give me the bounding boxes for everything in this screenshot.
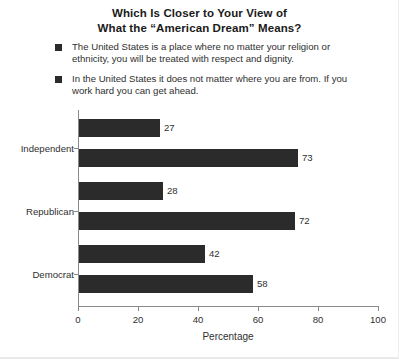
y-tick-label-democrat: Democrat [32,269,74,280]
y-tick-label-republican: Republican [26,206,74,217]
x-axis-title: Percentage [78,331,378,342]
x-tick-mark-60 [258,306,259,311]
x-tick-mark-40 [198,306,199,311]
y-tick-label-independent: Independent [21,143,74,154]
x-tick-mark-80 [318,306,319,311]
x-tick-label-100: 100 [358,314,398,325]
bar-independent-series2 [79,149,298,167]
bar-value-republican-series2: 72 [299,212,310,230]
bar-value-democrat-series1: 42 [209,245,220,263]
bar-republican-series2 [79,212,295,230]
x-tick-label-80: 80 [298,314,338,325]
x-tick-label-20: 20 [118,314,158,325]
y-axis-labels: Independent Republican Democrat [0,0,74,359]
x-tick-mark-100 [378,306,379,311]
bar-independent-series1 [79,119,160,137]
x-tick-label-40: 40 [178,314,218,325]
bar-value-democrat-series2: 58 [257,275,268,293]
x-tick-label-60: 60 [238,314,278,325]
x-tick-label-0: 0 [58,314,98,325]
chart-figure: Which Is Closer to Your View of What the… [0,0,399,359]
plot-area: Independent Republican Democrat 27 73 28… [0,0,399,359]
bar-value-independent-series2: 73 [302,149,313,167]
bar-democrat-series1 [79,245,205,263]
bar-republican-series1 [79,182,163,200]
x-tick-mark-20 [138,306,139,311]
x-tick-mark-0 [78,306,79,311]
bar-value-independent-series1: 27 [164,119,175,137]
bar-democrat-series2 [79,275,253,293]
bar-value-republican-series1: 28 [167,182,178,200]
x-axis-line [78,306,378,307]
